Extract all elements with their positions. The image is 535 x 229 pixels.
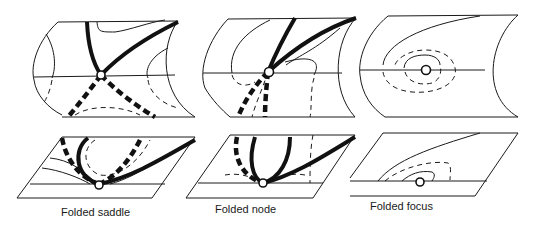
focus-upper-surface [360, 15, 518, 117]
saddle-singular-point-lower [95, 181, 103, 189]
folded-saddle-label: Folded saddle [61, 206, 130, 218]
node-lower-surface [186, 135, 355, 198]
saddle-singular-point [97, 71, 105, 79]
focus-singular-point [422, 66, 431, 75]
folded-node-label: Folded node [215, 203, 276, 215]
folded-node-panel [186, 18, 356, 198]
node-singular-point [265, 68, 274, 77]
folded-saddle-panel [17, 20, 195, 198]
node-singular-point-lower [259, 179, 267, 187]
focus-singular-point-lower [416, 178, 424, 186]
folded-focus-label: Folded focus [370, 200, 433, 212]
node-upper-surface [203, 18, 356, 117]
focus-lower-surface [350, 133, 518, 196]
folded-focus-panel [350, 15, 518, 196]
folded-singularities-diagram [0, 0, 535, 229]
saddle-upper-surface [33, 20, 195, 117]
saddle-lower-surface [17, 137, 195, 198]
